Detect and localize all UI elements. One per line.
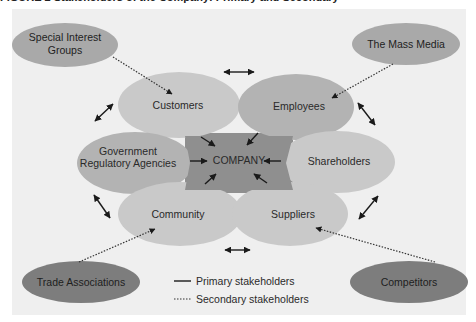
special-interest-label-2: Groups <box>48 44 82 56</box>
legend: Primary stakeholders Secondary stakehold… <box>174 275 309 305</box>
customers-label: Customers <box>153 99 204 111</box>
shareholders-label: Shareholders <box>308 155 370 167</box>
suppliers-label: Suppliers <box>271 208 315 220</box>
secondary-node-trade-associations: Trade Associations <box>22 261 140 303</box>
competitors-label: Competitors <box>381 276 438 288</box>
legend-secondary-label: Secondary stakeholders <box>196 293 309 305</box>
company-label: COMPANY <box>213 154 265 166</box>
special-interest-label-1: Special Interest <box>29 31 101 43</box>
secondary-node-special-interest: Special Interest Groups <box>12 23 118 67</box>
trade-associations-label: Trade Associations <box>37 276 125 288</box>
secondary-node-competitors: Competitors <box>350 261 468 303</box>
mass-media-label: The Mass Media <box>367 38 445 50</box>
legend-primary-label: Primary stakeholders <box>196 275 295 287</box>
employees-label: Employees <box>273 100 325 112</box>
government-label-2: Regulatory Agencies <box>80 157 176 169</box>
stakeholder-diagram: Special Interest Groups The Mass Media T… <box>0 0 476 322</box>
secondary-node-mass-media: The Mass Media <box>352 23 460 65</box>
community-label: Community <box>151 208 205 220</box>
government-label-1: Government <box>99 145 157 157</box>
